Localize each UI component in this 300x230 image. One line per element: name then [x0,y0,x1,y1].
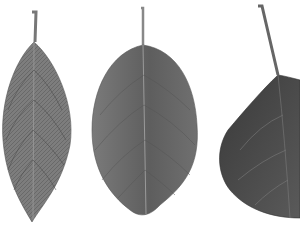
narrow-elliptic-leaf [3,12,71,222]
leaves-photo [0,0,300,230]
ovate-leaf [92,8,197,215]
cordate-leaf-cropped [220,6,300,218]
